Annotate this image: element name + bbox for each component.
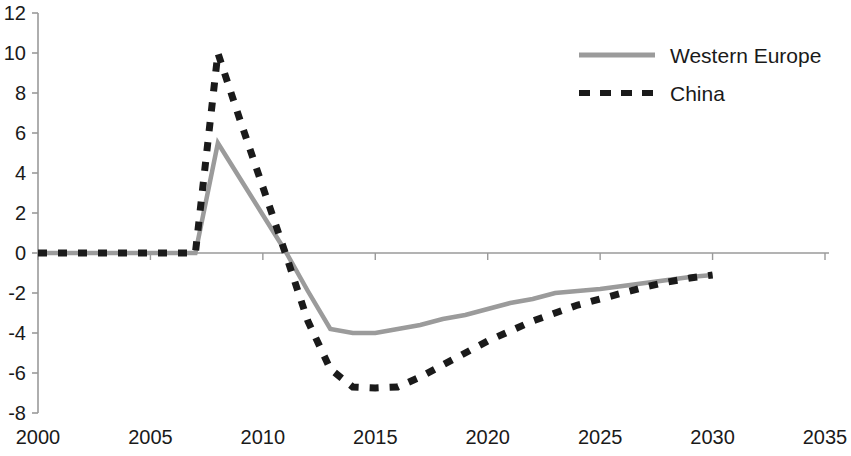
x-tick-label: 2000 (16, 427, 61, 447)
series-line-western-europe (38, 143, 713, 333)
x-tick-label: 2030 (690, 427, 735, 447)
line-chart: 121086420-2-4-6-8 2000200520102015202020… (0, 0, 851, 456)
y-tick-label: 10 (0, 43, 26, 63)
legend-label-western-europe: Western Europe (670, 45, 821, 66)
legend-item-china: China (578, 74, 846, 112)
x-tick-label: 2025 (578, 427, 623, 447)
y-tick-label: 0 (0, 243, 26, 263)
legend-label-china: China (670, 83, 725, 104)
y-tick-label: -2 (0, 283, 26, 303)
x-tick-label: 2005 (128, 427, 173, 447)
y-tick-label: 4 (0, 163, 26, 183)
y-tick-label: -8 (0, 403, 26, 423)
y-tick-label: 6 (0, 123, 26, 143)
y-tick-label: -6 (0, 363, 26, 383)
y-tick-label: 8 (0, 83, 26, 103)
y-tick-label: 2 (0, 203, 26, 223)
x-tick-label: 2020 (465, 427, 510, 447)
legend-swatch-dashed-icon (578, 84, 656, 102)
x-tick-label: 2035 (803, 427, 848, 447)
legend-item-western-europe: Western Europe (578, 36, 846, 74)
y-tick-label: -4 (0, 323, 26, 343)
y-tick-label: 12 (0, 3, 26, 23)
legend-swatch-solid-icon (578, 46, 656, 64)
x-tick-label: 2010 (241, 427, 286, 447)
x-tick-label: 2015 (353, 427, 398, 447)
chart-legend: Western Europe China (578, 36, 846, 112)
